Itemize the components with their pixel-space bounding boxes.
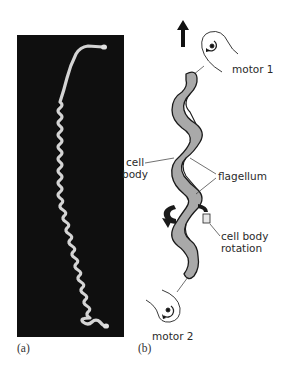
rotation-label-line1: cell body: [221, 230, 268, 242]
rotation-label-line2: rotation: [221, 242, 262, 254]
panel-b-label: (b): [138, 342, 151, 354]
motor-icon: [146, 290, 180, 322]
cell-body-helix: [172, 72, 203, 278]
motor-2-label: motor 2: [152, 330, 194, 342]
schematic-diagram: [0, 0, 290, 369]
cell-body-label-line2: body: [122, 168, 148, 180]
motor-1-label: motor 1: [232, 63, 274, 75]
up-arrow-icon: [177, 20, 189, 47]
flagellum-label: flagellum: [218, 170, 267, 182]
cell-body-label-line1: cell: [126, 156, 144, 168]
